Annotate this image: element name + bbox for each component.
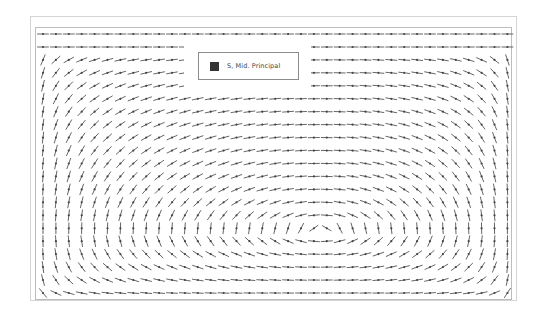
legend: S, Mid. Principal <box>198 52 299 80</box>
legend-swatch-icon <box>210 62 219 71</box>
chart-viewport: S, Mid. Principal <box>0 0 540 317</box>
legend-label: S, Mid. Principal <box>227 62 280 70</box>
